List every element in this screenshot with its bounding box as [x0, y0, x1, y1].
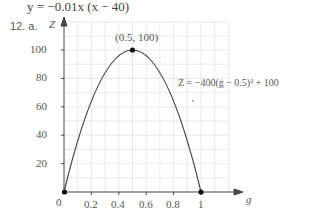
x-tick-label: 0.2: [84, 198, 98, 210]
y-tick-label: 20: [36, 157, 47, 169]
x-tick-label: 0.8: [166, 198, 180, 210]
y-tick-label: 80: [36, 71, 47, 83]
y-tick-label: 40: [36, 128, 47, 140]
x-tick-label: 1: [198, 198, 204, 210]
y-tick-label: 60: [36, 100, 47, 112]
x-axis-label: g: [246, 193, 252, 205]
equation-annotation: Z = −400(g − 0.5)² + 100: [178, 77, 279, 88]
x-tick-label: 0.6: [139, 198, 153, 210]
y-axis-label: Z: [49, 18, 55, 30]
vertex-label: (0.5, 100): [115, 31, 158, 43]
y-tick-label: 100: [30, 43, 47, 55]
origin-label: 0: [56, 196, 62, 208]
x-tick-label: 0.4: [111, 198, 125, 210]
